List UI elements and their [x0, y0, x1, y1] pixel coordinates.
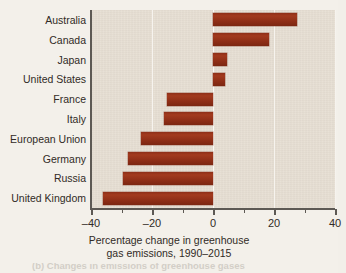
bar-italy	[164, 112, 213, 125]
x-tick-0	[213, 209, 215, 215]
y-label-france: France	[53, 93, 86, 105]
y-label-germany: Germany	[43, 153, 86, 165]
x-minor-tick--30	[122, 209, 124, 213]
x-tick--40	[91, 209, 93, 215]
bar-united-kingdom	[103, 192, 213, 205]
bar-japan	[213, 53, 227, 66]
bar-united-states	[213, 73, 225, 86]
y-label-australia: Australia	[45, 14, 86, 26]
bar-russia	[123, 172, 213, 185]
x-axis-tick-labels: –40–2002040	[0, 217, 338, 233]
x-tick-label-0: 0	[193, 217, 233, 229]
x-tick-label-20: 20	[254, 217, 294, 229]
gridline-40	[335, 10, 336, 208]
y-axis-spine	[90, 10, 92, 209]
y-label-italy: Italy	[67, 113, 86, 125]
y-label-united-kingdom: United Kingdom	[11, 192, 86, 204]
y-label-united-states: United States	[23, 73, 86, 85]
x-axis-title: Percentage change in greenhouse gas emis…	[0, 234, 338, 259]
x-tick-label--40: –40	[71, 217, 111, 229]
x-tick-label-40: 40	[315, 217, 346, 229]
x-minor-tick-10	[244, 209, 246, 213]
x-minor-tick-30	[305, 209, 307, 213]
plot-area	[91, 10, 335, 208]
x-tick-label--20: –20	[132, 217, 172, 229]
gridline-20	[274, 10, 275, 208]
y-label-canada: Canada	[49, 34, 86, 46]
y-axis-category-labels: AustraliaCanadaJapanUnited StatesFranceI…	[0, 10, 86, 208]
bar-canada	[213, 33, 269, 46]
figure-caption-text: (b) Changes in emissions of greenhouse g…	[32, 263, 245, 271]
bar-australia	[213, 13, 297, 26]
x-tick-40	[335, 209, 337, 215]
x-axis-title-line-1: Percentage change in greenhouse	[0, 234, 338, 247]
x-axis-title-line-2: gas emissions, 1990–2015	[0, 247, 338, 260]
bar-france	[167, 93, 213, 106]
bar-european-union	[141, 132, 213, 145]
figure-caption-clipped: (b) Changes in emissions of greenhouse g…	[0, 263, 338, 273]
x-tick-20	[274, 209, 276, 215]
bar-germany	[128, 152, 213, 165]
y-label-japan: Japan	[57, 54, 86, 66]
y-label-european-union: European Union	[10, 133, 86, 145]
x-minor-tick--10	[183, 209, 185, 213]
y-label-russia: Russia	[54, 172, 86, 184]
x-tick--20	[152, 209, 154, 215]
